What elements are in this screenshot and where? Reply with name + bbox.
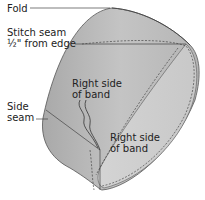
- label-stitch-seam: Stitch seam ½" from edge: [7, 27, 76, 49]
- label-stitch-seam-line1: Stitch seam: [7, 27, 76, 38]
- label-side-seam-line1: Side: [7, 101, 34, 112]
- label-right-side-inner-line2: of band: [110, 143, 160, 154]
- label-fold: Fold: [7, 3, 28, 14]
- label-right-side-inner-line1: Right side: [110, 132, 160, 143]
- label-right-side-outer-line2: of band: [72, 89, 122, 100]
- label-right-side-outer: Right side of band: [72, 78, 122, 100]
- label-stitch-seam-line2: ½" from edge: [7, 38, 76, 49]
- label-right-side-outer-line1: Right side: [72, 78, 122, 89]
- label-right-side-inner: Right side of band: [110, 132, 160, 154]
- label-side-seam-line2: seam: [7, 112, 34, 123]
- label-side-seam: Side seam: [7, 101, 34, 123]
